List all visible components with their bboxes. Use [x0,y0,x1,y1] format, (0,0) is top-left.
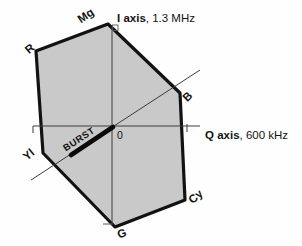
i-axis-spec: , 1.3 MHz [146,12,195,24]
i-axis-name: I axis [117,12,146,24]
q-axis-label: Q axis, 600 kHz [205,130,288,142]
i-axis-label: I axis, 1.3 MHz [117,13,195,25]
iq-vector-diagram: Mg R Yl G Cy B I axis, 1.3 MHz Q axis, 6… [0,0,302,246]
q-axis-spec: , 600 kHz [240,129,289,141]
q-axis-name: Q axis [205,129,240,141]
diagram-canvas [0,0,302,246]
origin-label: 0 [117,130,123,141]
